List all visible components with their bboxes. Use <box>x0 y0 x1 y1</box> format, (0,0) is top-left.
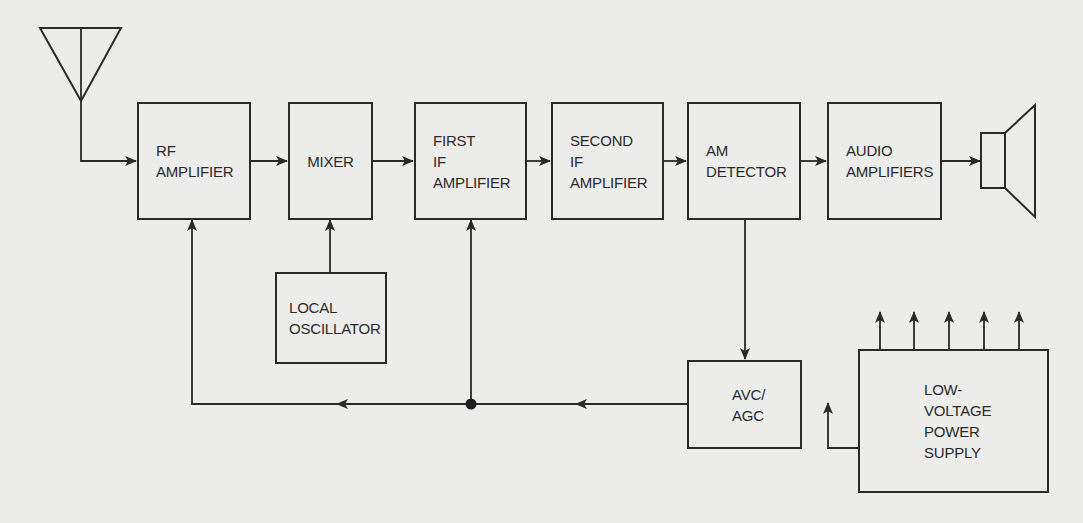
second-if-label-3: AMPLIFIER <box>570 172 647 193</box>
avc-agc-block: AVC/ AGC <box>687 360 802 449</box>
first-if-label-2: IF <box>433 151 446 172</box>
mixer-label: MIXER <box>307 151 354 172</box>
rf-amplifier-label-2: AMPLIFIER <box>156 161 233 182</box>
antenna-icon <box>40 28 121 101</box>
am-detector-label-1: AM <box>706 140 728 161</box>
avc-agc-label-2: AGC <box>732 405 764 426</box>
power-supply-input-wire <box>828 403 858 448</box>
antenna-to-rf-wire <box>81 101 136 161</box>
second-if-amplifier-block: SECOND IF AMPLIFIER <box>551 102 664 220</box>
am-detector-label-2: DETECTOR <box>706 161 787 182</box>
local-oscillator-label-2: OSCILLATOR <box>289 318 381 339</box>
avc-agc-label-1: AVC/ <box>732 384 765 405</box>
first-if-amplifier-block: FIRST IF AMPLIFIER <box>414 102 527 220</box>
speaker-icon <box>981 105 1035 217</box>
first-if-label-1: FIRST <box>433 130 475 151</box>
power-supply-label-2: VOLTAGE <box>924 400 991 421</box>
junction-dot-icon <box>466 399 477 410</box>
first-if-label-3: AMPLIFIER <box>433 172 510 193</box>
audio-amplifiers-label-1: AUDIO <box>846 140 893 161</box>
audio-amplifiers-block: AUDIO AMPLIFIERS <box>827 102 942 220</box>
local-oscillator-block: LOCAL OSCILLATOR <box>275 272 387 364</box>
power-supply-outputs <box>880 312 1019 349</box>
am-detector-block: AM DETECTOR <box>687 102 801 220</box>
power-supply-label-1: LOW- <box>924 379 962 400</box>
rf-amplifier-block: RF AMPLIFIER <box>137 102 251 220</box>
audio-amplifiers-label-2: AMPLIFIERS <box>846 161 933 182</box>
mixer-block: MIXER <box>288 102 373 220</box>
low-voltage-power-supply-block: LOW- VOLTAGE POWER SUPPLY <box>858 349 1049 493</box>
second-if-label-2: IF <box>570 151 583 172</box>
local-oscillator-label-1: LOCAL <box>289 297 337 318</box>
second-if-label-1: SECOND <box>570 130 633 151</box>
rf-amplifier-label-1: RF <box>156 140 176 161</box>
power-supply-label-3: POWER <box>924 421 980 442</box>
power-supply-label-4: SUPPLY <box>924 442 981 463</box>
